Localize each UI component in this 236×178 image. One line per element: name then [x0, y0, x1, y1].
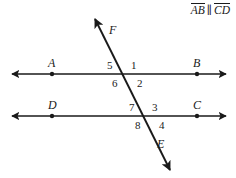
angle-label-8: 8: [135, 120, 141, 131]
parallel-statement: AB∥CD: [191, 3, 230, 18]
point-label-b: B: [193, 57, 200, 69]
angle-label-6: 6: [112, 78, 118, 89]
angle-label-7: 7: [129, 102, 135, 113]
point-label-e: E: [157, 138, 164, 150]
angle-label-1: 1: [131, 60, 137, 71]
point-c-dot: [195, 114, 199, 118]
angle-label-5: 5: [107, 60, 113, 71]
segment-ab-label: AB: [191, 3, 205, 16]
point-b-dot: [195, 72, 199, 76]
point-d-dot: [50, 114, 54, 118]
segment-cd-label: CD: [214, 3, 230, 16]
point-label-f: F: [109, 24, 116, 36]
point-a-dot: [50, 72, 54, 76]
parallel-symbol: ∥: [205, 4, 214, 18]
angle-label-3: 3: [152, 102, 158, 113]
point-label-a: A: [48, 57, 55, 69]
angle-label-4: 4: [159, 120, 165, 131]
geometry-figure: AB∥CD A B D C F E 1 2 3 4 5 6 7 8: [0, 0, 236, 178]
point-label-c: C: [193, 99, 201, 111]
angle-label-2: 2: [137, 78, 143, 89]
point-label-d: D: [48, 99, 57, 111]
diagram-canvas: [0, 0, 236, 178]
